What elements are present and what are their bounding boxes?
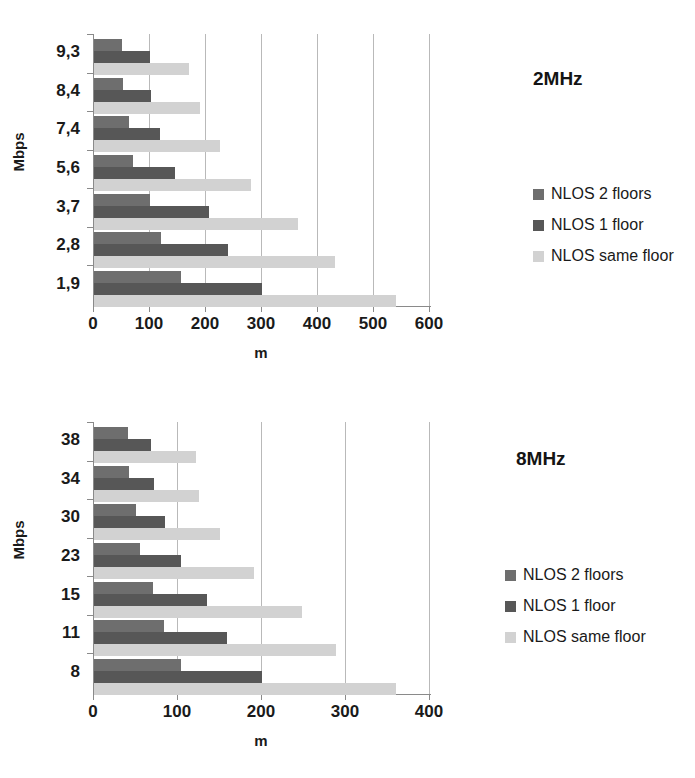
bar (94, 155, 133, 167)
x-axis-tick-label: 200 (231, 702, 291, 722)
x-axis-tick-label: 600 (399, 314, 459, 334)
y-axis-tick-label: 15 (20, 585, 80, 605)
y-axis-tick (87, 73, 93, 74)
bar (94, 218, 298, 230)
x-gridline (429, 422, 430, 694)
bar (94, 116, 129, 128)
x-axis-tick-label: 200 (175, 314, 235, 334)
legend-bottom: NLOS 2 floorsNLOS 1 floorNLOS same floor (505, 566, 646, 659)
x-axis-tick (149, 306, 150, 312)
bar (94, 39, 122, 51)
x-axis-tick (429, 694, 430, 700)
y-axis-tick-label: 30 (20, 507, 80, 527)
legend-item: NLOS 1 floor (533, 216, 674, 234)
bar (94, 232, 161, 244)
bar (94, 256, 335, 268)
bar (94, 51, 150, 63)
x-axis-tick (205, 306, 206, 312)
legend-item: NLOS 2 floors (533, 185, 674, 203)
x-axis-tick (373, 306, 374, 312)
bar (94, 528, 220, 540)
x-axis-tick (429, 306, 430, 312)
x-axis-title-top: m (93, 344, 429, 361)
bar (94, 567, 254, 579)
bar (94, 439, 151, 451)
legend-item: NLOS same floor (533, 247, 674, 265)
bar (94, 632, 227, 644)
bar (94, 490, 199, 502)
legend-label: NLOS 2 floors (523, 566, 623, 584)
y-axis-tick-label: 7,4 (20, 119, 80, 139)
bar (94, 594, 207, 606)
x-axis-tick-label: 100 (119, 314, 179, 334)
x-axis-tick-label: 300 (231, 314, 291, 334)
bar (94, 555, 181, 567)
legend-top: NLOS 2 floorsNLOS 1 floorNLOS same floor (533, 185, 674, 278)
legend-swatch-icon (533, 251, 544, 262)
y-axis-tick (87, 265, 93, 266)
bar (94, 283, 262, 295)
bar (94, 128, 160, 140)
legend-item: NLOS 1 floor (505, 597, 646, 615)
bar (94, 543, 140, 555)
bar (94, 167, 175, 179)
bar (94, 63, 189, 75)
bar (94, 620, 164, 632)
bar (94, 427, 128, 439)
y-axis-tick (87, 422, 93, 423)
x-gridline (429, 34, 430, 306)
y-axis-tick-label: 38 (20, 430, 80, 450)
x-axis-tick (317, 306, 318, 312)
panel-title-2mhz: 2MHz (533, 68, 583, 90)
bar (94, 466, 129, 478)
bar (94, 90, 151, 102)
bar (94, 644, 336, 656)
x-gridline (373, 34, 374, 306)
y-axis-tick-label: 34 (20, 469, 80, 489)
legend-swatch-icon (505, 632, 516, 643)
y-axis-tick (87, 499, 93, 500)
y-axis-tick (87, 111, 93, 112)
y-axis-tick-label: 23 (20, 546, 80, 566)
y-axis-tick (87, 576, 93, 577)
y-axis-tick (87, 150, 93, 151)
y-axis-tick (87, 34, 93, 35)
x-axis-tick-label: 500 (343, 314, 403, 334)
legend-swatch-icon (533, 220, 544, 231)
bar (94, 504, 136, 516)
x-axis-tick (345, 694, 346, 700)
y-axis-tick-label: 1,9 (20, 274, 80, 294)
y-axis-tick-label: 8 (20, 662, 80, 682)
y-axis-tick-label: 11 (20, 623, 80, 643)
y-axis-tick (87, 461, 93, 462)
x-axis-tick-label: 300 (315, 702, 375, 722)
bar (94, 206, 209, 218)
bar (94, 659, 181, 671)
bar (94, 244, 228, 256)
bar (94, 451, 196, 463)
bar (94, 78, 123, 90)
legend-label: NLOS same floor (523, 628, 646, 646)
x-axis-tick-label: 400 (287, 314, 347, 334)
legend-item: NLOS same floor (505, 628, 646, 646)
x-axis-tick-label: 100 (147, 702, 207, 722)
panel-title-8mhz: 8MHz (516, 448, 566, 470)
y-axis-tick-label: 2,8 (20, 235, 80, 255)
x-gridline (345, 422, 346, 694)
x-axis-tick-label: 400 (399, 702, 459, 722)
bar (94, 478, 154, 490)
bar (94, 516, 165, 528)
bar (94, 102, 200, 114)
legend-swatch-icon (505, 601, 516, 612)
legend-label: NLOS 1 floor (551, 216, 643, 234)
x-axis-title-bottom: m (93, 732, 429, 749)
bar (94, 582, 153, 594)
bar (94, 295, 396, 307)
legend-swatch-icon (505, 570, 516, 581)
x-axis-tick-label: 0 (63, 314, 123, 334)
bar (94, 671, 262, 683)
y-axis-tick (87, 227, 93, 228)
x-axis-tick (261, 694, 262, 700)
legend-label: NLOS 2 floors (551, 185, 651, 203)
y-axis-tick (87, 188, 93, 189)
